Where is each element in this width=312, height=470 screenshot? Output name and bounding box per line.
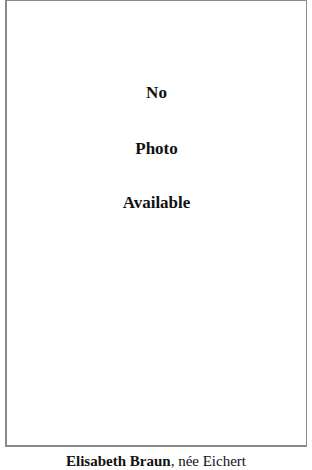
placeholder-text-no: No — [7, 83, 306, 103]
maiden-name: née Eichert — [174, 453, 246, 469]
photo-placeholder-frame: No Photo Available — [5, 0, 307, 447]
placeholder-text-photo: Photo — [7, 139, 306, 159]
placeholder-text-available: Available — [7, 193, 306, 213]
photo-caption: Elisabeth Braun, née Eichert — [0, 452, 312, 470]
person-name: Elisabeth Braun — [66, 453, 171, 469]
